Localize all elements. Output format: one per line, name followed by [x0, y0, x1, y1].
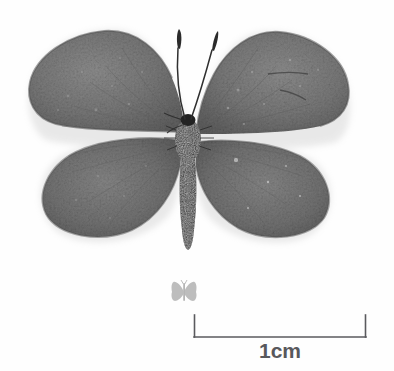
butterfly-silhouette-icon: [172, 280, 197, 301]
butterfly-specimen-image: [0, 0, 394, 270]
scale-bar-label: 1cm: [194, 339, 366, 363]
specimen-plate: 1cm: [0, 0, 394, 371]
butterfly-specimen-svg: [0, 0, 394, 270]
